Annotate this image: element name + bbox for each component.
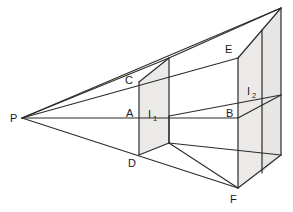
label-plane-1-subscript: 1: [153, 114, 157, 123]
label-c: C: [125, 74, 133, 86]
diagram-canvas: P A B C D E F I 1 I 2: [0, 0, 293, 212]
label-plane-1: I: [148, 108, 151, 120]
far-plane-side-strip: [262, 8, 281, 173]
label-plane-2-subscript: 2: [252, 91, 256, 100]
near-image-plane-face: [139, 58, 169, 155]
label-d: D: [128, 157, 136, 169]
label-plane-2: I: [247, 85, 250, 97]
label-a: A: [126, 107, 134, 119]
label-b: B: [226, 107, 233, 119]
label-p: P: [10, 112, 17, 124]
ray-p-through-d-to-f: [22, 118, 238, 188]
label-f: F: [230, 193, 237, 205]
perspective-diagram: P A B C D E F I 1 I 2: [0, 0, 293, 212]
shaded-faces: [139, 8, 281, 188]
label-e: E: [225, 43, 232, 55]
